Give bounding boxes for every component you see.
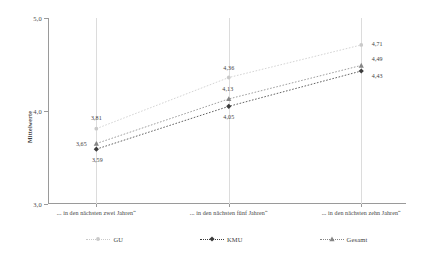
y-tick-label: 3,0 <box>33 201 42 208</box>
data-point-label: 3,65 <box>76 141 87 147</box>
data-point-label: 4,43 <box>372 73 383 79</box>
legend-item-kmu[interactable]: KMU <box>200 235 243 244</box>
legend-item-gesamt[interactable]: Gesamt <box>320 235 368 244</box>
y-tick-mark <box>44 204 48 205</box>
x-category-label: ... in den nächsten fünf Jahren“ <box>190 210 268 216</box>
data-point-marker <box>94 147 99 152</box>
legend-item-gu[interactable]: GU <box>86 235 123 244</box>
data-point-marker <box>94 141 99 146</box>
data-point-label: 3,59 <box>92 157 103 163</box>
legend-symbol-icon <box>93 234 103 244</box>
y-tick-label: 4,0 <box>33 108 42 115</box>
legend-marker-icon <box>200 235 224 244</box>
data-point-marker <box>359 43 363 47</box>
chart-container: Mittelwerte 5,04,03,0 ... in den nächste… <box>0 0 424 253</box>
data-point-label: 4,36 <box>223 65 234 71</box>
legend-marker-icon <box>320 235 344 244</box>
data-point-label: 4,13 <box>222 86 233 92</box>
data-point-marker <box>359 63 364 68</box>
series-lines <box>48 18 406 204</box>
chart-legend: GUKMUGesamt <box>48 231 406 247</box>
data-point-marker <box>227 76 231 80</box>
legend-label: GU <box>113 236 123 243</box>
series-line-kmu <box>96 71 361 149</box>
y-tick-label: 5,0 <box>33 15 42 22</box>
data-point-label: 3,81 <box>91 115 102 121</box>
x-tick-mark <box>96 204 97 207</box>
data-point-label: 4,49 <box>372 56 383 62</box>
legend-symbol-icon <box>207 234 217 244</box>
y-axis-title: Mittelwerte <box>27 110 33 142</box>
legend-label: KMU <box>227 236 243 243</box>
x-tick-mark <box>361 204 362 207</box>
data-point-label: 4,05 <box>223 114 234 120</box>
x-category-label: ... in den nächsten zwei Jahren“ <box>57 210 136 216</box>
legend-label: Gesamt <box>347 236 368 243</box>
data-point-marker <box>226 104 231 109</box>
data-point-label: 4,71 <box>372 41 383 47</box>
data-point-marker <box>94 127 98 131</box>
data-point-marker <box>359 68 364 73</box>
plot-area: 5,04,03,0 ... in den nächsten zwei Jahre… <box>48 18 406 204</box>
x-tick-mark <box>229 204 230 207</box>
legend-marker-icon <box>86 235 110 244</box>
legend-symbol-icon <box>327 234 337 244</box>
x-category-label: ... in den nächsten zehn Jahren“ <box>322 210 401 216</box>
